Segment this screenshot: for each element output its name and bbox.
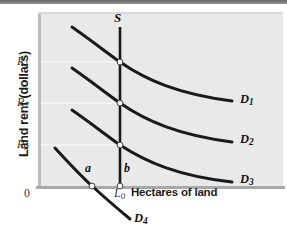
y-tick-r1-subscript: 1: [24, 59, 29, 69]
demand-curve-d1: [72, 27, 232, 101]
x-axis-title: Hectares of land: [131, 186, 217, 198]
equilibrium-marker-d1: [117, 59, 123, 65]
equilibrium-marker-d2: [117, 100, 123, 106]
d1-base: D: [240, 92, 249, 106]
x-tick-l0-base: L: [114, 186, 121, 200]
y-tick-r2-subscript: 2: [24, 100, 29, 110]
y-tick-label-r2: R2: [17, 95, 29, 110]
supply-curve-label: S: [114, 10, 121, 26]
demand-curve-label-d3: D3: [240, 172, 254, 187]
x-tick-label-l0: L0: [114, 186, 125, 201]
demand-curve-label-d1: D1: [240, 92, 254, 107]
d2-subscript: 2: [249, 137, 254, 147]
d3-subscript: 3: [249, 177, 254, 187]
y-tick-r3-subscript: 3: [24, 142, 29, 152]
point-a-label: a: [85, 161, 91, 176]
demand-curve-label-d2: D2: [240, 132, 254, 147]
d2-base: D: [240, 132, 249, 146]
origin-label: 0: [24, 186, 30, 201]
equilibrium-marker-d3: [117, 142, 123, 148]
d3-base: D: [240, 172, 249, 186]
d4-base: D: [134, 211, 143, 225]
y-tick-label-r1: R1: [17, 54, 29, 69]
d1-subscript: 1: [249, 97, 254, 107]
point-b-label: b: [124, 161, 130, 176]
equilibrium-marker-a: [89, 183, 95, 189]
y-tick-label-r3: R3: [17, 137, 29, 152]
x-tick-l0-subscript: 0: [121, 191, 126, 201]
land-rent-chart-figure: Land rent (dollars) Hectares of land R1 …: [0, 0, 287, 230]
d4-subscript: 4: [143, 216, 148, 226]
demand-curve-label-d4: D4: [134, 211, 148, 226]
